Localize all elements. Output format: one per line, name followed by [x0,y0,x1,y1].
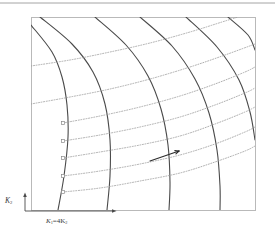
y-axis-label-subscript: 2 [10,200,12,205]
y-axis-label: K2 [5,197,12,205]
figure-container: K2 K1=4K2 [0,0,275,238]
plot-frame [32,18,256,211]
x-axis-label-relation: =4K [53,217,66,225]
axis-arrows [23,193,116,213]
curve-set [31,17,255,210]
x-axis-label: K1=4K2 [46,218,68,225]
x-axis-label-subscript-2: 2 [65,220,67,225]
direction-arrow [150,151,179,161]
contour-plot-svg [0,0,275,238]
